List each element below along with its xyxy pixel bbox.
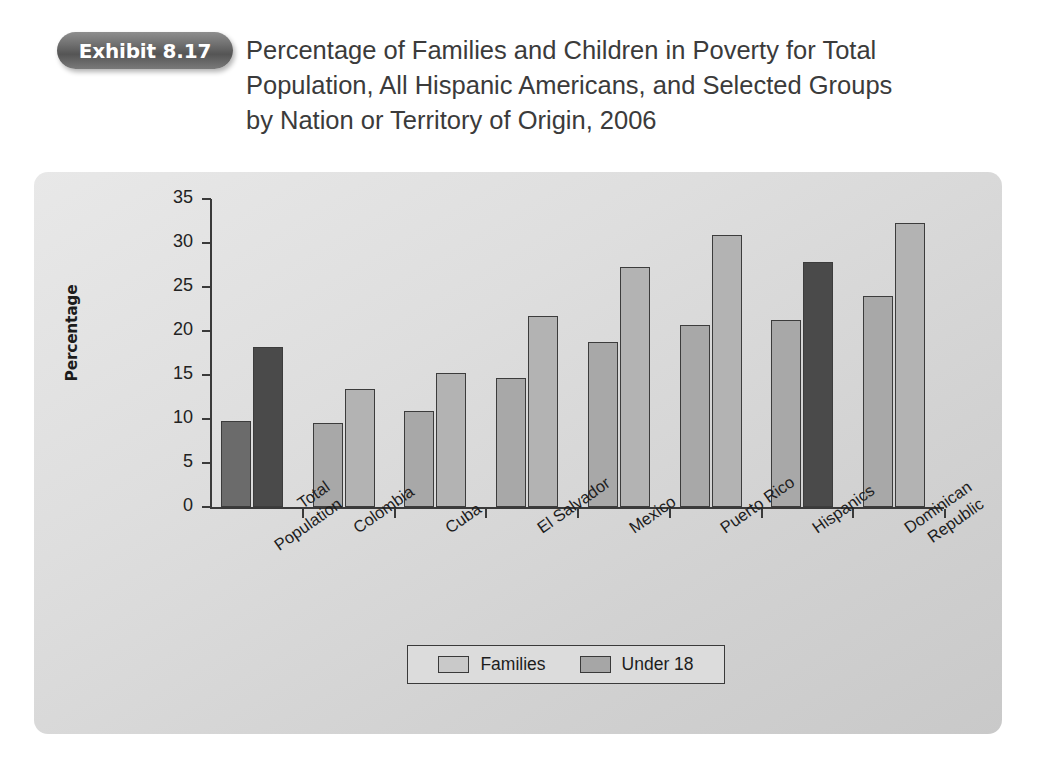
- exhibit-header: Exhibit 8.17 Percentage of Families and …: [0, 0, 1041, 175]
- y-axis-tick-label: 10: [147, 407, 193, 428]
- bar: [221, 421, 251, 507]
- bar: [620, 267, 650, 507]
- bar: [680, 325, 710, 507]
- legend-item-families: Families: [438, 654, 545, 675]
- y-axis-tick-label: 15: [147, 363, 193, 384]
- bar: [436, 373, 466, 507]
- y-axis-tick-label: 35: [147, 187, 193, 208]
- bar: [863, 296, 893, 507]
- y-axis-tick-label: 0: [147, 495, 193, 516]
- exhibit-title: Percentage of Families and Children in P…: [246, 33, 1016, 138]
- legend-swatch-families-icon: [438, 656, 469, 673]
- bar: [253, 347, 283, 507]
- y-axis-tick-label: 5: [147, 451, 193, 472]
- plot-area: Percentage 05101520253035 Total Populati…: [34, 172, 1002, 734]
- bar: [895, 223, 925, 507]
- y-axis-title: Percentage: [63, 268, 81, 398]
- y-axis-tick-label: 20: [147, 319, 193, 340]
- y-axis-tick: [202, 506, 211, 508]
- exhibit-badge: Exhibit 8.17: [57, 32, 233, 69]
- bar: [345, 389, 375, 507]
- x-axis-tick: [485, 509, 487, 518]
- y-axis-tick: [202, 374, 211, 376]
- y-axis-tick: [202, 418, 211, 420]
- legend-swatch-under18-icon: [580, 656, 611, 673]
- y-axis-tick: [202, 242, 211, 244]
- legend-label-under18: Under 18: [622, 654, 694, 675]
- bar: [528, 316, 558, 507]
- exhibit-badge-label: Exhibit 8.17: [79, 39, 211, 63]
- bar: [496, 378, 526, 507]
- bar: [803, 262, 833, 507]
- bar: [712, 235, 742, 507]
- y-axis-tick-label: 25: [147, 275, 193, 296]
- legend-label-families: Families: [480, 654, 545, 675]
- y-axis-tick: [202, 198, 211, 200]
- chart-legend: Families Under 18: [407, 645, 725, 684]
- y-axis-tick: [202, 330, 211, 332]
- y-axis-tick: [202, 462, 211, 464]
- y-axis-tick: [202, 286, 211, 288]
- y-axis-tick-label: 30: [147, 231, 193, 252]
- chart-panel: Percentage 05101520253035 Total Populati…: [34, 172, 1002, 734]
- legend-item-under18: Under 18: [580, 654, 694, 675]
